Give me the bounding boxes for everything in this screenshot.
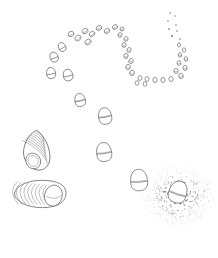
sand-grain: [190, 208, 191, 209]
sand-grain: [201, 195, 202, 196]
sand-grain: [165, 188, 166, 189]
sand-grain: [189, 167, 190, 168]
sand-grain: [164, 201, 165, 202]
sand-grain: [210, 194, 211, 195]
sand-grain: [191, 167, 192, 168]
sand-grain: [202, 188, 203, 189]
sand-grain: [197, 178, 198, 179]
sand-grain: [142, 195, 143, 196]
sand-grain: [175, 212, 176, 213]
sand-grain: [154, 200, 155, 201]
sand-grain: [193, 170, 194, 171]
sand-grain: [209, 188, 210, 189]
sand-grain: [166, 187, 167, 188]
sand-grain: [204, 183, 205, 184]
sand-grain: [198, 218, 199, 219]
sand-grain: [164, 200, 165, 201]
sand-grain: [212, 200, 213, 201]
sand-grain: [168, 211, 169, 212]
sand-grain: [148, 195, 149, 196]
sand-grain: [166, 168, 167, 169]
sand-grain: [151, 200, 152, 201]
sand-grain: [159, 217, 160, 218]
sand-grain: [212, 199, 213, 200]
sand-grain: [167, 172, 168, 173]
sand-grain: [149, 199, 150, 200]
sand-grain: [176, 222, 177, 223]
sand-grain: [163, 171, 164, 172]
sand-grain: [190, 220, 191, 221]
sand-grain: [166, 218, 167, 219]
sand-grain: [176, 220, 177, 221]
sand-grain: [168, 182, 169, 183]
sand-grain: [179, 173, 180, 174]
sand-grain: [162, 208, 163, 209]
sand-grain: [174, 216, 175, 217]
sand-grain: [172, 217, 173, 218]
sand-grain: [177, 169, 178, 170]
trail-oval: [135, 81, 139, 86]
sand-grain: [156, 209, 157, 210]
sand-grain: [166, 210, 167, 211]
sand-grain: [156, 198, 157, 199]
sand-grain: [159, 200, 160, 201]
sand-grain: [177, 210, 178, 211]
sand-grain: [149, 195, 150, 196]
sand-grain: [157, 214, 158, 215]
sand-grain: [201, 215, 202, 216]
sand-grain: [197, 182, 198, 183]
sand-grain: [153, 207, 154, 208]
sand-grain: [212, 197, 213, 198]
sand-grain: [198, 190, 199, 191]
sand-grain: [200, 218, 201, 219]
sand-grain: [192, 224, 193, 225]
sand-grain: [169, 205, 170, 206]
sand-grain: [206, 188, 207, 189]
sand-grain: [194, 172, 195, 173]
sand-grain: [170, 204, 171, 205]
sand-grain: [204, 191, 205, 192]
sand-grain: [191, 180, 192, 181]
sand-grain: [181, 176, 182, 177]
sand-grain: [153, 217, 154, 218]
sand-grain: [171, 176, 172, 177]
sand-grain: [194, 199, 195, 200]
sand-grain: [208, 201, 209, 202]
sand-grain: [184, 204, 185, 205]
sand-grain: [162, 213, 163, 214]
sand-grain: [157, 213, 158, 214]
sand-grain: [195, 212, 196, 213]
sand-grain: [194, 221, 195, 222]
sand-grain: [199, 219, 200, 220]
sand-grain: [200, 179, 201, 180]
speck-mark: [168, 28, 170, 30]
sand-grain: [178, 165, 179, 166]
sand-grain: [150, 189, 151, 190]
sand-grain: [177, 173, 178, 174]
sand-grain: [189, 206, 190, 207]
trail-oval: [182, 48, 186, 53]
sand-grain: [163, 219, 164, 220]
sand-grain: [195, 202, 196, 203]
sand-grain: [153, 198, 154, 199]
sand-grain: [162, 205, 163, 206]
sand-grain: [176, 226, 177, 227]
sand-grain: [157, 174, 158, 175]
sand-grain: [198, 206, 199, 207]
sand-grain: [189, 193, 190, 194]
sand-grain: [210, 194, 211, 195]
sand-grain: [187, 216, 188, 217]
sand-grain: [198, 176, 199, 177]
sand-grain: [171, 181, 172, 182]
sand-grain: [178, 179, 179, 180]
sand-grain: [213, 198, 214, 199]
sand-grain: [178, 219, 179, 220]
sand-grain: [182, 223, 183, 224]
sand-grain: [199, 217, 200, 218]
sand-grain: [160, 171, 161, 172]
sand-grain: [210, 208, 211, 209]
sand-grain: [191, 196, 192, 197]
canvas-background: [0, 0, 218, 258]
sand-grain: [206, 208, 207, 209]
sand-grain: [185, 224, 186, 225]
